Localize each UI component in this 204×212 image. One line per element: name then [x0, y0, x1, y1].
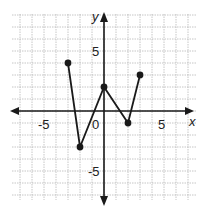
- x-tick-label-5: 5: [158, 118, 165, 131]
- data-point: [101, 84, 108, 91]
- y-tick-label-5: 5: [92, 45, 99, 58]
- x-axis-label: x: [189, 115, 196, 128]
- y-axis-arrow-down-icon: [100, 196, 108, 206]
- y-tick-label-neg5: -5: [88, 165, 100, 178]
- y-axis-label: y: [92, 10, 99, 23]
- data-point: [125, 120, 132, 127]
- coordinate-plane: [0, 0, 204, 212]
- data-point: [77, 144, 84, 151]
- data-point: [137, 72, 144, 79]
- x-tick-label-neg5: -5: [38, 118, 50, 131]
- data-point: [65, 60, 72, 67]
- y-axis-arrow-up-icon: [100, 12, 108, 22]
- x-axis-arrow-left-icon: [10, 107, 19, 115]
- origin-label: 0: [92, 118, 99, 131]
- axes: [10, 12, 194, 206]
